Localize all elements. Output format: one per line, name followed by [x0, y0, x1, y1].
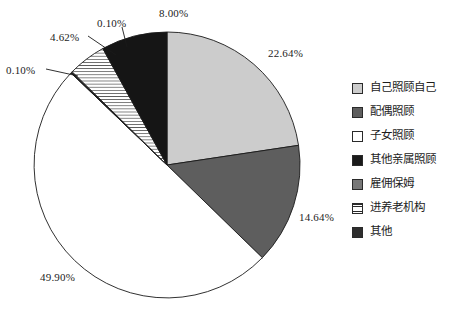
- legend-item-label: 其他: [370, 226, 392, 238]
- legend-swatch-icon: [352, 107, 363, 118]
- legend-item[interactable]: 配偶照顾: [352, 100, 468, 124]
- slice-value-label: 0.10%: [6, 65, 35, 76]
- pie-chart-figure: 8.00%0.10%4.62%0.10%22.64%14.64%49.90% 自…: [0, 0, 474, 326]
- slice-value-label: 8.00%: [159, 8, 188, 19]
- legend-swatch-icon: [352, 83, 363, 94]
- legend-item-label: 配偶照顾: [370, 106, 414, 118]
- legend-item-label: 进养老机构: [370, 202, 425, 214]
- legend-item[interactable]: 其他亲属照顾: [352, 148, 468, 172]
- legend-item[interactable]: 其他: [352, 220, 468, 244]
- legend-item[interactable]: 自己照顾自己: [352, 76, 468, 100]
- slice-value-label: 4.62%: [50, 32, 79, 43]
- legend-item[interactable]: 雇佣保姆: [352, 172, 468, 196]
- legend-item[interactable]: 进养老机构: [352, 196, 468, 220]
- legend-item-label: 子女照顾: [370, 130, 414, 142]
- legend-item-label: 其他亲属照顾: [370, 154, 436, 166]
- legend-swatch-icon: [352, 131, 363, 142]
- legend-swatch-icon: [352, 179, 363, 190]
- pie-slice-group: [34, 32, 300, 298]
- slice-value-label: 49.90%: [40, 272, 75, 283]
- legend-item-label: 自己照顾自己: [370, 82, 436, 94]
- legend-item[interactable]: 子女照顾: [352, 124, 468, 148]
- slice-value-label: 0.10%: [97, 18, 126, 29]
- legend-item-label: 雇佣保姆: [370, 178, 414, 190]
- legend-swatch-icon: [352, 155, 363, 166]
- chart-legend: 自己照顾自己配偶照顾子女照顾其他亲属照顾雇佣保姆进养老机构其他: [352, 76, 468, 244]
- slice-value-label: 22.64%: [268, 48, 303, 59]
- legend-swatch-icon: [352, 227, 363, 238]
- slice-value-label: 14.64%: [299, 212, 334, 223]
- legend-swatch-icon: [352, 203, 363, 214]
